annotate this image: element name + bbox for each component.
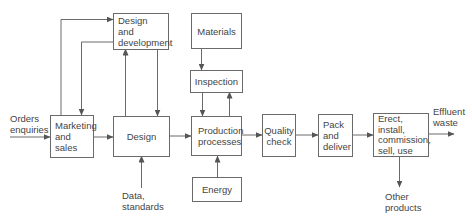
label-text: Other	[385, 191, 421, 202]
box-text: Production	[198, 125, 241, 136]
label-effluent-waste: Effluent waste	[433, 106, 465, 128]
box-text: Materials	[197, 26, 236, 37]
box-production-processes: Production processes	[191, 116, 242, 156]
box-materials: Materials	[191, 13, 242, 49]
label-text: Effluent	[433, 106, 465, 117]
box-text: Quality	[264, 125, 294, 136]
label-text: Data,	[122, 190, 164, 201]
box-text: deliver	[323, 141, 352, 152]
arrow-marketing-to-design-development	[61, 20, 113, 116]
box-text: Design	[118, 15, 168, 26]
box-text: development	[118, 37, 168, 48]
box-text: and	[55, 131, 93, 142]
box-text: sell, use	[378, 146, 428, 157]
label-text: waste	[433, 117, 465, 128]
box-inspection: Inspection	[190, 70, 243, 93]
box-design-development: Design and development	[113, 13, 169, 50]
box-quality-check: Quality check	[262, 114, 296, 157]
label-other-products: Other products	[385, 191, 421, 213]
box-text: processes	[198, 136, 241, 147]
box-marketing-sales: Marketing and sales	[50, 115, 94, 158]
label-text: Orders	[10, 113, 49, 124]
box-text: commission,	[378, 135, 428, 146]
label-text: enquiries	[10, 124, 49, 135]
box-text: Marketing	[55, 120, 93, 131]
box-text: Energy	[202, 184, 232, 195]
box-design: Design	[113, 116, 170, 157]
box-text: and	[118, 26, 168, 37]
label-data-standards: Data, standards	[122, 190, 164, 212]
box-erect-install-commission: Erect, install, commission, sell, use	[373, 113, 429, 157]
label-orders-enquiries: Orders enquiries	[10, 113, 49, 135]
box-text: sales	[55, 142, 93, 153]
box-text: Erect,	[378, 114, 428, 125]
box-text: and	[323, 130, 352, 141]
arrow-design-development-to-marketing	[82, 42, 114, 115]
label-text: standards	[122, 201, 164, 212]
box-energy: Energy	[192, 177, 242, 202]
manufacturing-flow-diagram: Design and development Materials Inspect…	[0, 0, 472, 223]
box-text: Inspection	[195, 76, 238, 87]
box-pack-deliver: Pack and deliver	[318, 114, 353, 157]
box-text: Design	[127, 131, 157, 142]
label-text: products	[385, 202, 421, 213]
box-text: check	[267, 136, 292, 147]
box-text: Pack	[323, 119, 352, 130]
